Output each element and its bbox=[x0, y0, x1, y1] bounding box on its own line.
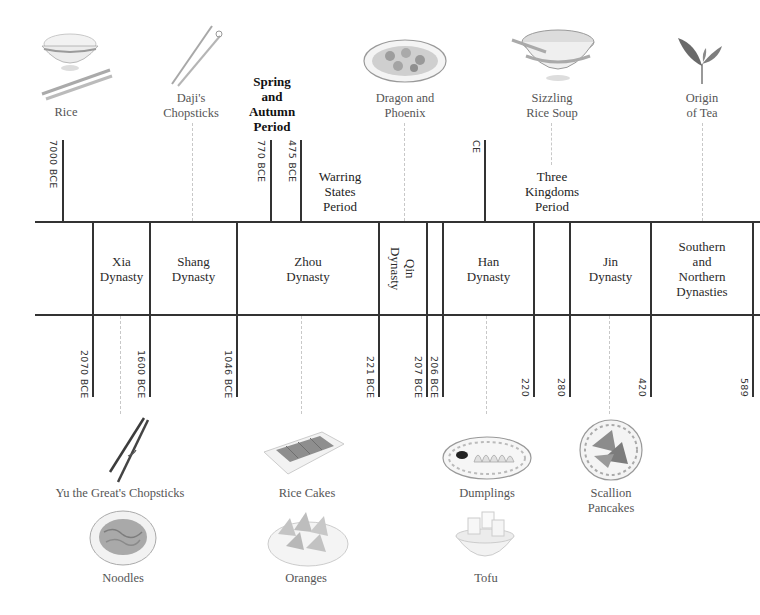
connector-tea bbox=[702, 123, 703, 221]
period-spring-autumn: SpringandAutumnPeriod bbox=[240, 74, 304, 134]
rice-cakes-icon bbox=[262, 426, 346, 482]
connector-scallion-pancakes bbox=[609, 316, 610, 414]
tofu-bowl-icon bbox=[452, 506, 518, 566]
food-label-dumplings: Dumplings bbox=[452, 486, 522, 501]
connector-dragon-phoenix bbox=[404, 123, 405, 221]
dish-platter-icon bbox=[362, 38, 448, 84]
dynasty-jin: JinDynasty bbox=[571, 224, 650, 314]
date-label-ce: CE bbox=[471, 140, 482, 153]
period-warring-states: WarringStatesPeriod bbox=[306, 169, 374, 214]
food-label-sizzling-rice-soup: SizzlingRice Soup bbox=[516, 91, 588, 121]
food-label-yu-chopsticks: Yu the Great's Chopsticks bbox=[45, 486, 195, 501]
period-three-kingdoms: ThreeKingdomsPeriod bbox=[518, 169, 586, 214]
oranges-plate-icon bbox=[266, 504, 350, 568]
dynasty-southern-northern: SouthernandNorthernDynasties bbox=[652, 224, 752, 314]
pancakes-plate-icon bbox=[578, 418, 644, 482]
noodles-plate-icon bbox=[88, 508, 158, 568]
food-label-oranges: Oranges bbox=[276, 571, 336, 586]
food-label-rice-cakes: Rice Cakes bbox=[272, 486, 342, 501]
date-label-280: 280 bbox=[556, 378, 567, 397]
dynasty-zhou: ZhouDynasty bbox=[238, 224, 378, 314]
chopsticks-icon bbox=[104, 416, 152, 486]
dynasty-han: HanDynasty bbox=[444, 224, 533, 314]
tea-leaf-icon bbox=[676, 34, 726, 86]
tick-770bce bbox=[270, 140, 272, 222]
date-label-220: 220 bbox=[520, 378, 531, 397]
connector-dumplings bbox=[486, 316, 487, 414]
food-label-dragon-phoenix: Dragon andPhoenix bbox=[370, 91, 440, 121]
date-label-1600bce: 1600 BCE bbox=[136, 350, 147, 399]
food-label-rice: Rice bbox=[48, 105, 84, 120]
boundary-220 bbox=[533, 222, 535, 397]
date-label-589: 589 bbox=[739, 378, 750, 397]
dynasty-xia: XiaDynasty bbox=[94, 224, 149, 314]
food-label-tofu: Tofu bbox=[466, 571, 506, 586]
connector-rice-cakes bbox=[301, 316, 302, 414]
dumplings-plate-icon bbox=[442, 434, 532, 482]
tick-ce bbox=[484, 140, 486, 222]
date-label-207bce: 207 BCE bbox=[413, 356, 424, 398]
tick-475bce bbox=[300, 140, 302, 222]
date-label-1046bce: 1046 BCE bbox=[223, 350, 234, 399]
tick-7000bce bbox=[62, 140, 64, 222]
date-label-7000bce: 7000 BCE bbox=[48, 140, 59, 189]
boundary-589 bbox=[752, 222, 754, 397]
dynasty-qin: QinDynasty bbox=[380, 224, 426, 314]
date-label-221bce: 221 BCE bbox=[365, 356, 376, 398]
rice-bowl-icon bbox=[38, 28, 116, 102]
connector-yu-chopsticks bbox=[120, 316, 121, 414]
date-label-206bce: 206 BCE bbox=[429, 356, 440, 398]
date-label-770bce: 770 BCE bbox=[256, 140, 267, 182]
date-label-2070bce: 2070 BCE bbox=[79, 350, 90, 399]
date-label-420: 420 bbox=[637, 378, 648, 397]
food-label-noodles: Noodles bbox=[98, 571, 148, 586]
boundary-207bce bbox=[426, 222, 428, 397]
connector-sizzling-soup bbox=[551, 123, 552, 165]
soup-bowl-icon bbox=[510, 26, 598, 86]
food-label-dajis-chopsticks: Daji'sChopsticks bbox=[160, 91, 222, 121]
chopsticks-icon bbox=[168, 22, 228, 88]
date-label-475bce: 475 BCE bbox=[287, 140, 298, 182]
food-label-scallion-pancakes: ScallionPancakes bbox=[576, 486, 646, 516]
dynasty-shang: ShangDynasty bbox=[151, 224, 236, 314]
food-label-origin-of-tea: Originof Tea bbox=[672, 91, 732, 121]
connector-daji bbox=[192, 123, 193, 221]
